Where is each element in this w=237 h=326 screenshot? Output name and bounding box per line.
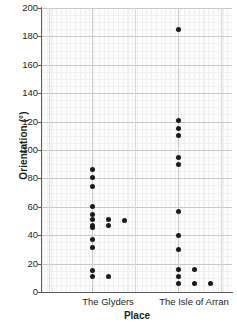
y-tick-mark <box>38 207 42 208</box>
plot-area <box>42 8 232 292</box>
data-point <box>106 217 111 222</box>
y-tick-label: 140 <box>12 88 38 98</box>
data-point <box>90 237 95 242</box>
y-tick-mark <box>38 235 42 236</box>
data-point <box>106 274 111 279</box>
horizontal-gridline <box>42 93 232 94</box>
scatter-chart: Orientation (°) 200180160140120100806040… <box>0 0 237 326</box>
data-point <box>90 175 95 180</box>
vertical-gridline <box>221 8 222 292</box>
x-category-label: The Isle of Arran <box>159 296 229 308</box>
y-tick-label: 60 <box>12 202 38 212</box>
data-point <box>176 118 181 123</box>
y-tick-mark <box>38 178 42 179</box>
data-point <box>176 133 181 138</box>
data-point <box>192 267 197 272</box>
data-point <box>90 268 95 273</box>
x-axis-line <box>41 292 233 293</box>
data-point <box>176 162 181 167</box>
data-point <box>176 126 181 131</box>
data-point <box>176 27 181 32</box>
y-tick-mark <box>38 122 42 123</box>
y-tick-label: 0 <box>12 287 38 297</box>
horizontal-gridline <box>42 122 232 123</box>
y-tick-label: 120 <box>12 117 38 127</box>
data-point <box>176 267 181 272</box>
data-point <box>90 217 95 222</box>
horizontal-gridline <box>42 65 232 66</box>
y-tick-mark <box>38 36 42 37</box>
x-axis-title: Place <box>42 310 232 321</box>
vertical-gridline <box>135 8 136 292</box>
data-point <box>90 274 95 279</box>
horizontal-gridline <box>42 264 232 265</box>
vertical-gridline <box>49 8 50 292</box>
data-point <box>176 209 181 214</box>
data-point <box>176 247 181 252</box>
horizontal-gridline <box>42 36 232 37</box>
y-tick-label: 160 <box>12 60 38 70</box>
y-tick-mark <box>38 292 42 293</box>
horizontal-gridline <box>42 235 232 236</box>
horizontal-gridline <box>42 178 232 179</box>
y-tick-label: 180 <box>12 31 38 41</box>
y-tick-mark <box>38 65 42 66</box>
x-category-label: The Glyders <box>82 296 134 308</box>
y-tick-mark <box>38 264 42 265</box>
data-point <box>208 281 213 286</box>
data-point <box>176 233 181 238</box>
data-point <box>90 184 95 189</box>
horizontal-gridline <box>42 150 232 151</box>
y-tick-label: 200 <box>12 3 38 13</box>
horizontal-gridline <box>42 207 232 208</box>
x-axis-category-labels: The GlydersThe Isle of Arran <box>42 296 232 310</box>
data-point <box>90 204 95 209</box>
y-tick-label: 20 <box>12 259 38 269</box>
y-axis-tick-labels: 200180160140120100806040200 <box>12 0 38 326</box>
data-point <box>176 274 181 279</box>
y-tick-label: 40 <box>12 230 38 240</box>
y-tick-mark <box>38 8 42 9</box>
data-point <box>176 155 181 160</box>
data-point <box>192 281 197 286</box>
y-tick-mark <box>38 93 42 94</box>
data-point <box>90 225 95 230</box>
y-tick-label: 100 <box>12 145 38 155</box>
data-point <box>176 281 181 286</box>
y-tick-label: 80 <box>12 173 38 183</box>
data-point <box>122 218 127 223</box>
horizontal-gridline <box>42 8 232 9</box>
y-tick-mark <box>38 150 42 151</box>
data-point <box>90 167 95 172</box>
